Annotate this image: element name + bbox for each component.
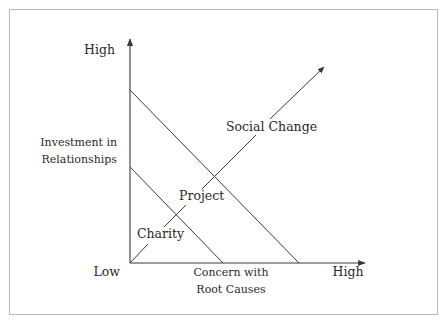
x-axis-title-line1: Concern with — [193, 266, 268, 279]
progression-arrow-seg3 — [202, 135, 256, 189]
concept-diagram: High Investment in Relationships Low Con… — [0, 0, 447, 325]
x-axis-title-line2: Root Causes — [196, 283, 266, 296]
y-axis-title-line2: Relationships — [42, 153, 118, 166]
y-axis-title-line1: Investment in — [40, 136, 117, 149]
x-axis-low-label: Low — [93, 264, 120, 279]
progression-arrow-seg4 — [270, 67, 324, 119]
region-label-project: Project — [179, 188, 224, 203]
progression-arrow-seg2 — [164, 205, 186, 227]
y-axis-high-label: High — [84, 42, 115, 57]
x-axis-high-label: High — [333, 264, 364, 279]
region-label-social-change: Social Change — [226, 119, 317, 134]
region-label-charity: Charity — [137, 226, 185, 241]
progression-arrow-seg1 — [130, 244, 148, 263]
